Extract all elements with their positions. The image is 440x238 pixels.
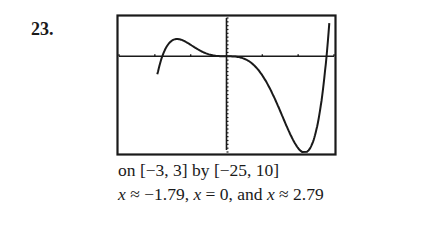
var-x: x	[193, 184, 201, 204]
zero-1-text: ≈ −1.79,	[126, 184, 194, 204]
zero-2-text: = 0, and	[201, 184, 267, 204]
zero-3-text: ≈ 2.79	[275, 184, 324, 204]
var-x: x	[118, 184, 126, 204]
window-caption: on [−3, 3] by [−25, 10]	[118, 160, 279, 181]
function-curve	[157, 23, 329, 152]
axes	[119, 18, 334, 152]
var-x: x	[267, 184, 275, 204]
zeros-caption: x ≈ −1.79, x = 0, and x ≈ 2.79	[118, 184, 324, 205]
